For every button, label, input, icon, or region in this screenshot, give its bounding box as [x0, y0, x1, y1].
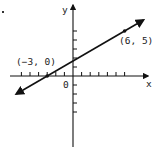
x-axis-label: x [146, 79, 152, 89]
point-label-b: (6, 5) [119, 36, 153, 46]
data-point [123, 29, 127, 33]
data-point [45, 74, 49, 78]
coordinate-plane-figure: y x 0 (−3, 0) (6, 5) [0, 0, 158, 154]
item-bullet [2, 11, 4, 13]
y-axis-ticks [73, 31, 77, 112]
origin-label: 0 [63, 80, 69, 90]
graph-svg [0, 0, 158, 154]
y-axis-label: y [62, 5, 68, 15]
point-label-a: (−3, 0) [16, 57, 56, 67]
